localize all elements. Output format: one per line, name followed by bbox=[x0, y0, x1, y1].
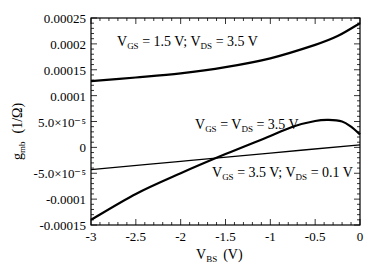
y-tick-label: -0.0001 bbox=[46, 192, 86, 207]
y-tick-label: -5.0×10⁻⁵ bbox=[34, 166, 86, 181]
y-tick-label: 5.0×10⁻⁵ bbox=[38, 115, 86, 130]
x-tick-label: -0.5 bbox=[305, 229, 326, 244]
y-tick-label: 0.00025 bbox=[44, 11, 86, 26]
y-tick-label: 0 bbox=[80, 140, 87, 155]
x-tick-label: -1 bbox=[265, 229, 276, 244]
x-tick-label: 0 bbox=[357, 229, 364, 244]
x-axis-label: VBS(V) bbox=[196, 247, 243, 264]
x-tick-label: -2.5 bbox=[126, 229, 147, 244]
series-label-2: VGS = 3.5 V; VDS = 0.1 V bbox=[212, 165, 353, 182]
x-tick-label: -1.5 bbox=[215, 229, 236, 244]
y-axis-label: gmb(1/Ω) bbox=[10, 103, 27, 160]
series-line-0 bbox=[91, 23, 360, 81]
y-tick-label: 0.0002 bbox=[50, 37, 86, 52]
series-label-1: VGS = VDS = 3.5 V bbox=[195, 117, 299, 134]
y-tick-label: -0.00015 bbox=[39, 218, 86, 233]
chart: -3-2.5-2-1.5-1-0.500.000250.00020.000150… bbox=[0, 0, 377, 274]
series-label-0: VGS = 1.5 V; VDS = 3.5 V bbox=[117, 34, 258, 51]
y-tick-label: 0.0001 bbox=[50, 89, 86, 104]
y-tick-label: 0.00015 bbox=[44, 63, 86, 78]
x-tick-label: -2 bbox=[175, 229, 186, 244]
x-tick-label: -3 bbox=[86, 229, 97, 244]
